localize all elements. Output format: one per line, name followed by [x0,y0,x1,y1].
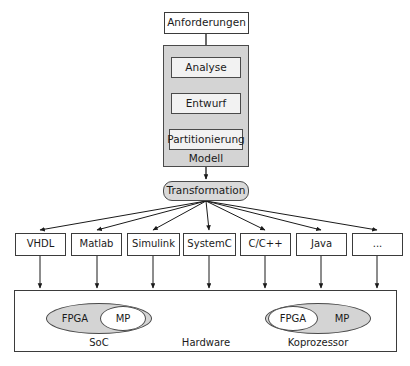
node-language-systemc-label: SystemC [187,239,231,250]
ellipse-koprozessor-fpga-label: FPGA [280,313,306,324]
label-hardware: Hardware [170,337,242,348]
ellipse-koprozessor-fpga[interactable]: FPGA [268,306,318,331]
edge-transformation-matlab [97,201,206,230]
node-language-matlab-label: Matlab [80,239,114,250]
label-platform-koprozessor: Koprozessor [275,337,361,348]
node-language-simulink[interactable]: Simulink [127,233,180,256]
edge-transformation-systemc [206,201,209,230]
design-flow-diagram: Anforderungen Analyse Entwurf Partitioni… [0,0,410,366]
edge-transformation-vhdl [40,201,206,230]
node-language-cpp[interactable]: C/C++ [240,233,291,256]
ellipse-soc-mp-label: MP [116,313,131,324]
edge-transformation-more [206,201,377,230]
ellipse-soc-mp[interactable]: MP [100,306,146,331]
node-language-systemc[interactable]: SystemC [183,233,236,256]
node-language-more-label: ... [373,239,383,250]
node-language-java-label: Java [311,239,332,250]
label-platform-soc: SoC [60,337,138,348]
node-anforderungen-label: Anforderungen [167,17,246,28]
node-transformation[interactable]: Transformation [163,181,249,201]
node-language-matlab[interactable]: Matlab [71,233,122,256]
ellipse-koprozessor-mp-label: MP [320,313,364,324]
node-entwurf[interactable]: Entwurf [171,93,241,114]
group-modell-label: Modell [163,152,249,164]
ellipse-soc-fpga-label: FPGA [50,313,100,324]
edge-transformation-cpp [206,201,265,230]
node-language-vhdl-label: VHDL [27,239,55,250]
node-partitionierung[interactable]: Partitionierung [169,129,243,150]
node-entwurf-label: Entwurf [186,98,227,109]
node-language-more[interactable]: ... [352,233,403,256]
node-language-simulink-label: Simulink [132,239,175,250]
node-anforderungen[interactable]: Anforderungen [164,12,249,34]
node-analyse-label: Analyse [185,62,226,73]
edge-transformation-simulink [153,201,206,230]
node-partitionierung-label: Partitionierung [167,134,244,145]
node-analyse[interactable]: Analyse [171,57,241,78]
node-language-cpp-label: C/C++ [248,239,282,250]
node-language-vhdl[interactable]: VHDL [15,233,66,256]
node-transformation-label: Transformation [167,185,246,196]
node-language-java[interactable]: Java [296,233,347,256]
edge-transformation-java [206,201,321,230]
